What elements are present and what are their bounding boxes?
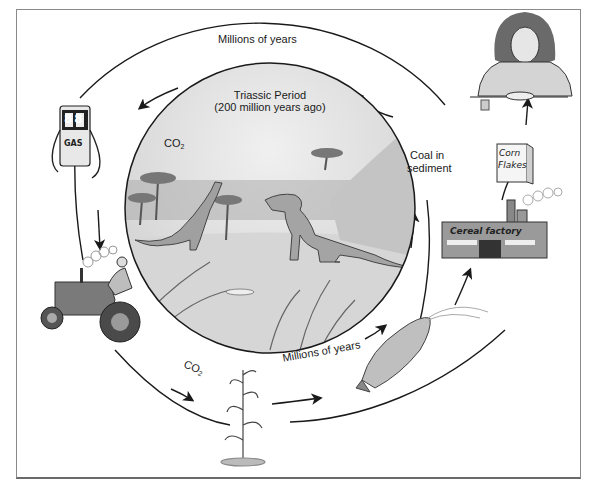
- carbon-cycle-diagram: [0, 0, 591, 494]
- girl-eating-illustration: [470, 12, 572, 110]
- coal-label-line2: sediment: [407, 162, 452, 175]
- cereal-box-line2: Flakes: [498, 160, 527, 170]
- corn-plant-illustration: [221, 370, 265, 466]
- inner-co2-label: CO2: [164, 137, 184, 153]
- gas-pump-display: 88: [64, 112, 85, 126]
- cereal-box-line1: Corn: [499, 148, 520, 158]
- inner-subtitle: (200 million years ago): [200, 101, 340, 114]
- gas-pump-label: GAS: [64, 139, 83, 148]
- corn-cob-illustration: [356, 307, 488, 392]
- bones: [226, 289, 254, 295]
- label-top-millions-of-years: Millions of years: [218, 33, 297, 46]
- tractor-illustration: [41, 246, 140, 342]
- factory-label: Cereal factory: [450, 226, 522, 236]
- coal-label-line1: Coal in: [410, 149, 444, 162]
